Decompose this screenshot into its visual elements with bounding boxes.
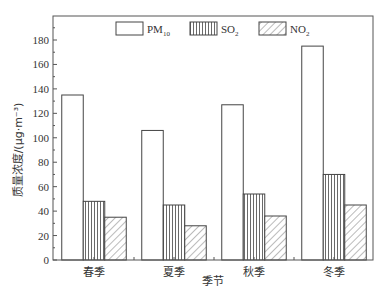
bar-so2-1 [163,205,185,260]
y-tick-label: 80 [38,156,50,168]
bar-so2-0 [83,201,105,260]
y-tick-label: 100 [33,132,50,144]
x-tick-label: 冬季 [323,265,345,279]
x-tick-label: 夏季 [163,266,185,279]
y-tick-label: 120 [33,107,50,119]
bar-pm10-1 [142,130,164,260]
bar-pm10-0 [62,95,84,260]
y-tick-label: 60 [38,181,50,193]
y-tick-label: 160 [33,58,50,70]
bar-chart: 020406080100120140160180 春季夏季秋季冬季 PM10SO… [0,0,389,304]
y-axis-label: 质量浓度/(μg·m⁻³) [11,103,25,198]
legend-label-so2: SO2 [221,23,239,38]
legend: PM10SO2NO2 [116,22,310,38]
x-tick-label: 春季 [83,266,105,279]
legend-label-no2: NO2 [290,23,310,38]
bar-no2-1 [185,226,207,260]
y-tick-label: 40 [38,205,50,217]
y-tick-label: 180 [33,34,50,46]
y-tick-label: 0 [44,254,50,266]
bars-group [62,46,367,260]
legend-label-pm10: PM10 [147,23,170,38]
bar-no2-0 [105,217,127,260]
legend-swatch-no2 [259,22,286,35]
bar-so2-3 [323,174,345,260]
x-tick-label: 秋季 [243,265,265,279]
bar-so2-2 [243,194,265,260]
x-axis-label: 季节 [202,275,224,288]
legend-swatch-pm10 [116,22,143,35]
y-tick-label: 140 [33,83,50,95]
bar-pm10-2 [222,105,244,260]
y-tick-label: 20 [38,230,50,242]
bar-no2-2 [265,216,287,260]
legend-swatch-so2 [190,22,217,35]
bar-pm10-3 [302,46,324,260]
bar-no2-3 [345,205,367,260]
